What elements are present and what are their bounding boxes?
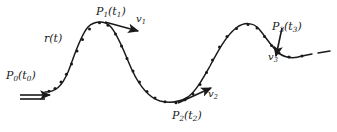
curve-sample-point [98, 21, 101, 24]
curve-sample-point [114, 33, 117, 36]
curve-sample-point [65, 73, 68, 76]
curve-sample-points [48, 21, 304, 104]
curve-sample-point [107, 24, 110, 27]
curve-sample-point [256, 27, 259, 30]
curve-sample-point [146, 90, 149, 93]
curve-sample-point [120, 45, 123, 48]
curve-sample-point [48, 90, 51, 93]
label-curve-function: r(t) [44, 33, 62, 44]
label-point-1: P1(t1) [96, 6, 126, 18]
curve-sample-point [154, 97, 157, 100]
curve-sample-point [235, 27, 238, 30]
curve-sample-point [76, 50, 79, 53]
curve-sample-point [278, 52, 281, 55]
label-point-0: P0(t0) [6, 70, 36, 82]
curve-sample-point [288, 56, 291, 59]
curve-sample-point [81, 38, 84, 41]
label-point-2: P2(t2) [172, 110, 202, 122]
curve-sample-point [226, 35, 229, 38]
label-point-3: P3(t3) [272, 21, 302, 33]
curve-sample-point [164, 100, 167, 103]
parametrized-curve [45, 22, 302, 102]
curve-sample-point [132, 70, 135, 73]
curve-sample-point [70, 63, 73, 66]
curve-sample-point [175, 101, 178, 104]
curve-sample-point [199, 83, 202, 86]
label-velocity-1: v1 [136, 14, 146, 25]
curve-sample-point [270, 44, 273, 47]
curve-sample-point [263, 35, 266, 38]
label-velocity-3: v3 [268, 52, 278, 63]
curve-sample-point [205, 71, 208, 74]
curve-sample-point [301, 55, 304, 58]
curve-sample-point [211, 59, 214, 62]
curve-dashed-continuation [302, 51, 330, 56]
curve-sample-point [126, 57, 129, 60]
figure-canvas: P0(t0) r(t) P1(t1) v1 P2(t2) v2 P3(t3) v… [0, 0, 337, 132]
label-velocity-2: v2 [208, 89, 218, 100]
curve-sample-point [218, 46, 221, 49]
curve-sample-point [138, 81, 141, 84]
curve-sample-point [54, 87, 57, 90]
curve-sample-point [88, 28, 91, 31]
curve-sample-point [60, 81, 63, 84]
curve-sample-point [247, 23, 250, 26]
